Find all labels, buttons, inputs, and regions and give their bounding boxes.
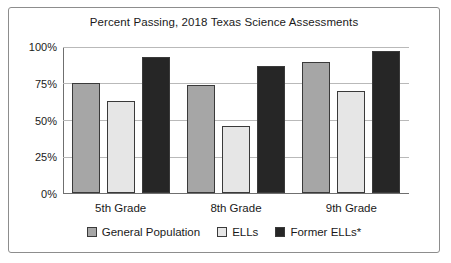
legend-swatch [87,227,97,237]
legend-item: General Population [87,226,200,238]
chart-card: Percent Passing, 2018 Texas Science Asse… [8,7,440,253]
y-axis-tick-label: 100% [29,41,57,53]
x-axis-category-label: 9th Grade [294,202,409,214]
y-axis-tick-label: 50% [35,115,57,127]
bar-group: 9th Grade [294,46,409,193]
legend-label: General Population [102,226,200,238]
bar-group: 5th Grade [63,46,178,193]
bar [72,83,100,193]
bar-group: 8th Grade [178,46,293,193]
x-axis-line [63,193,409,194]
y-axis-tick-label: 0% [41,188,57,200]
legend-swatch [217,227,227,237]
plot-area: 0%25%50%75%100% 5th Grade8th Grade9th Gr… [63,47,409,194]
bar [337,91,365,193]
bar [107,101,135,193]
y-axis-tick-label: 25% [35,151,57,163]
legend-item: Former ELLs* [275,226,361,238]
legend-item: ELLs [217,226,258,238]
y-axis-tick-label: 75% [35,78,57,90]
x-axis-category-label: 5th Grade [63,202,178,214]
legend-label: Former ELLs* [290,226,361,238]
legend-swatch [275,227,285,237]
x-axis-category-label: 8th Grade [178,202,293,214]
bar [222,126,250,193]
chart-legend: General PopulationELLsFormer ELLs* [9,226,439,238]
legend-label: ELLs [232,226,258,238]
bar [257,66,285,193]
bar [302,62,330,193]
bar [372,51,400,193]
bar [187,85,215,193]
bar [142,57,170,193]
chart-title: Percent Passing, 2018 Texas Science Asse… [9,16,439,28]
